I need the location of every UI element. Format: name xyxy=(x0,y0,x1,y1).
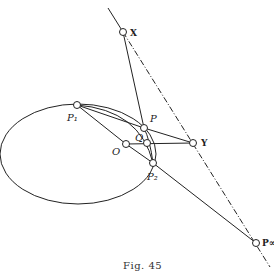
point-y xyxy=(190,140,197,147)
label-x: X xyxy=(130,28,137,38)
point-p1 xyxy=(74,102,81,109)
label-o: O xyxy=(112,146,120,157)
label-q: Q xyxy=(135,132,143,143)
point-x xyxy=(120,29,127,36)
point-pinf xyxy=(253,240,260,247)
label-p: P xyxy=(149,113,157,124)
point-q xyxy=(144,140,151,147)
label-p1: P₁ xyxy=(66,112,78,123)
line-x-p xyxy=(123,32,144,128)
figure-caption: Fig. 45 xyxy=(123,260,162,271)
point-p2 xyxy=(150,160,157,167)
line-o-y xyxy=(126,143,193,144)
label-p2: P₂ xyxy=(146,171,158,182)
ellipse-orbit xyxy=(0,104,156,204)
label-pinf: P∞ xyxy=(262,238,274,248)
figure-45-diagram: X P₁ P Q O Y P₂ P∞ Fig. 45 xyxy=(0,0,274,278)
line-x-to-x-dashdot xyxy=(108,8,123,32)
label-y: Y xyxy=(200,138,208,148)
line-p-y xyxy=(144,128,193,143)
line-o-p2 xyxy=(126,144,153,163)
line-p2-pinf xyxy=(153,163,256,243)
point-p xyxy=(141,125,148,132)
dashdot-line-x-pinf xyxy=(123,32,270,267)
point-o xyxy=(123,141,130,148)
